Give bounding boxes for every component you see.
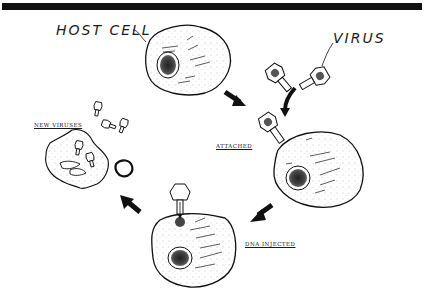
label-new-viruses: NEW VIRUSES [34, 122, 82, 128]
label-dna-injected: DNA INJECTED [245, 241, 295, 247]
arrow-head-2 [280, 108, 290, 117]
host-cell [146, 25, 231, 95]
attached-virus [256, 110, 289, 147]
label-virus: VIRUS [333, 30, 386, 46]
attached-cell [274, 132, 363, 207]
label-attached: ATTACHED [216, 143, 252, 149]
cell-fragment [115, 160, 132, 176]
arrow-injected-to-new [128, 202, 140, 212]
dna-injected-cell [152, 214, 236, 287]
label-host-cell: HOST CELL [56, 22, 152, 38]
virus-pointer [322, 43, 333, 66]
virus-2 [296, 64, 331, 95]
